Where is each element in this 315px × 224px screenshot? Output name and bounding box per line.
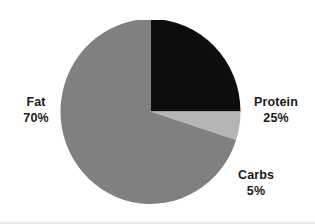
pie-graphic: [60, 20, 241, 205]
slice-label-protein-value: 25%: [243, 110, 309, 126]
slice-label-fat-value: 70%: [10, 110, 62, 126]
slice-label-carbs-name: Carbs: [225, 167, 287, 183]
slice-label-fat-name: Fat: [10, 94, 62, 110]
slice-label-protein: Protein 25%: [243, 94, 309, 126]
slice-label-protein-name: Protein: [243, 94, 309, 110]
pie-chart: Fat 70% Protein 25% Carbs 5%: [0, 0, 315, 224]
slice-label-carbs-value: 5%: [225, 183, 287, 199]
pie-svg: [60, 20, 241, 205]
page-scan-edge: [0, 220, 315, 224]
pie-slice-protein: [151, 20, 241, 112]
slice-label-carbs: Carbs 5%: [225, 167, 287, 199]
slice-label-fat: Fat 70%: [10, 94, 62, 126]
